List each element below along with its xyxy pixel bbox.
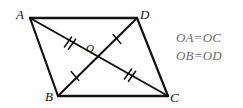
annotation-ob-od: OB=OD xyxy=(176,47,242,65)
annotation-oa-oc: OA=OC xyxy=(176,29,242,47)
annotation-block: OA=OC OB=OD xyxy=(176,29,242,65)
vertex-label-a: A xyxy=(16,8,24,21)
intersection-label-o: O xyxy=(86,43,94,54)
vertex-label-b: B xyxy=(45,90,53,103)
vertex-label-d: D xyxy=(140,8,149,21)
parallelogram-diagonals xyxy=(30,18,168,96)
diagonal-AC xyxy=(30,18,168,96)
side-DC xyxy=(137,18,168,96)
vertex-label-c: C xyxy=(170,91,179,104)
geometry-figure: A D B C O OA=OC OB=OD xyxy=(0,0,243,108)
diagonal-BD xyxy=(58,18,137,96)
side-BA xyxy=(30,18,58,96)
